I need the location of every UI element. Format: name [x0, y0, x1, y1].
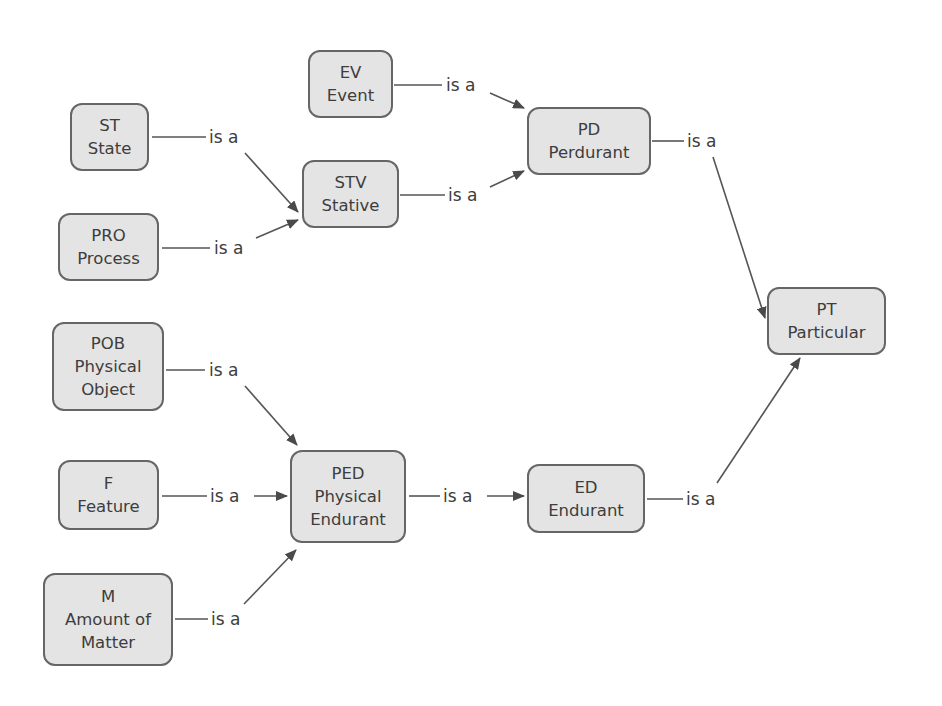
edge-label-m-ped: is a — [211, 609, 240, 629]
node-process: PRO Process — [58, 213, 159, 281]
node-name: Process — [77, 247, 140, 270]
ontology-diagram: is a is a is a is a is a is a is a is a … — [0, 0, 942, 706]
node-name: Particular — [787, 321, 865, 344]
edge-pd-pt-arrow — [713, 157, 765, 318]
node-feature: F Feature — [58, 460, 159, 530]
node-physical-object: POB Physical Object — [52, 322, 164, 411]
edge-label-ev-pd: is a — [446, 75, 475, 95]
node-endurant: ED Endurant — [527, 464, 645, 533]
edge-label-pro-stv: is a — [214, 238, 243, 258]
node-name-line2: Object — [81, 378, 135, 401]
node-name-line2: Endurant — [310, 508, 386, 531]
edge-label-f-ped: is a — [210, 486, 239, 506]
node-code: PED — [331, 462, 364, 485]
node-name: State — [88, 137, 132, 160]
node-state: ST State — [70, 103, 149, 171]
node-name: Feature — [77, 495, 139, 518]
edge-label-st-stv: is a — [209, 127, 238, 147]
node-code: PRO — [91, 224, 125, 247]
node-perdurant: PD Perdurant — [527, 107, 651, 175]
node-amount-of-matter: M Amount of Matter — [43, 573, 173, 666]
node-name: Event — [327, 84, 374, 107]
node-name: Stative — [321, 194, 379, 217]
edge-pob-ped-arrow — [245, 386, 297, 445]
edge-st-stv-arrow — [245, 153, 298, 212]
edge-label-ed-pt: is a — [686, 489, 715, 509]
node-name-line1: Physical — [314, 485, 381, 508]
node-name-line2: Matter — [81, 631, 135, 654]
edge-label-pob-ped: is a — [209, 360, 238, 380]
node-name-line1: Amount of — [65, 608, 151, 631]
node-name: Perdurant — [549, 141, 630, 164]
node-code: EV — [340, 61, 362, 84]
edge-pro-stv-arrow — [256, 220, 298, 238]
edge-ev-pd-arrow — [490, 93, 524, 108]
node-code: PD — [578, 118, 601, 141]
node-particular: PT Particular — [767, 287, 886, 355]
edge-m-ped-arrow — [244, 550, 296, 604]
node-code: PT — [816, 298, 836, 321]
node-code: M — [101, 585, 115, 608]
node-stative: STV Stative — [302, 160, 399, 228]
node-event: EV Event — [308, 50, 393, 118]
node-physical-endurant: PED Physical Endurant — [290, 450, 406, 543]
edge-label-stv-pd: is a — [448, 185, 477, 205]
node-code: STV — [335, 171, 367, 194]
edge-label-ped-ed: is a — [443, 486, 472, 506]
edge-stv-pd-arrow — [490, 171, 524, 187]
node-name-line1: Physical — [74, 355, 141, 378]
node-code: ED — [574, 476, 597, 499]
node-code: F — [104, 472, 114, 495]
node-code: POB — [91, 332, 125, 355]
edge-ed-pt-arrow — [717, 358, 800, 483]
node-code: ST — [99, 114, 120, 137]
node-name: Endurant — [548, 499, 624, 522]
edge-label-pd-pt: is a — [687, 131, 716, 151]
